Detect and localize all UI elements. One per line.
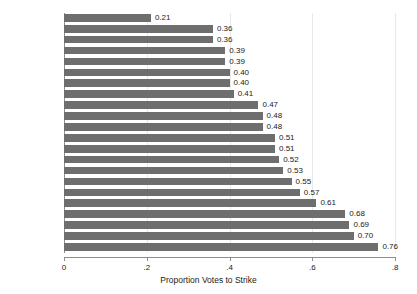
bar-row: 0.51Stewart (64, 133, 395, 144)
plot-area: 0.21Rehnquist0.36Harlan0.36Frankfurter0.… (64, 13, 395, 253)
bar-value-label: 0.52 (283, 155, 299, 165)
bar (64, 189, 300, 197)
x-tick-mark (312, 257, 313, 261)
bar-chart: 0.21Rehnquist0.36Harlan0.36Frankfurter0.… (0, 0, 417, 294)
bar-row: 0.70Brennan (64, 231, 395, 242)
bar (64, 221, 349, 229)
bar-value-label: 0.36 (217, 35, 233, 45)
bar-row: 0.48White (64, 111, 395, 122)
bar (64, 58, 225, 66)
bar-row: 0.51Powell (64, 144, 395, 155)
bar-row: 0.40Clark (64, 78, 395, 89)
bar (64, 134, 275, 142)
bar-value-label: 0.70 (358, 231, 374, 241)
bar (64, 36, 213, 44)
x-tick-mark (395, 257, 396, 261)
bar-value-label: 0.61 (320, 198, 336, 208)
bar-value-label: 0.68 (349, 209, 365, 219)
bar (64, 210, 345, 218)
bar (64, 178, 292, 186)
bar (64, 14, 151, 22)
bar-value-label: 0.69 (353, 220, 369, 230)
bar (64, 69, 230, 77)
bar (64, 112, 263, 120)
bar-value-label: 0.39 (229, 57, 245, 67)
bar-value-label: 0.41 (238, 89, 254, 99)
bar-row: 0.53Breyer (64, 166, 395, 177)
bar-value-label: 0.51 (279, 133, 295, 143)
x-tick-mark (64, 257, 65, 261)
x-tick-mark (230, 257, 231, 261)
x-tick-mark (147, 257, 148, 261)
bar-value-label: 0.21 (155, 13, 171, 23)
bar-row: 0.41O'Connor (64, 89, 395, 100)
bar-row: 0.69Douglas (64, 220, 395, 231)
x-tick-label: .6 (309, 263, 316, 272)
bar-value-label: 0.36 (217, 24, 233, 34)
bar-value-label: 0.40 (234, 78, 250, 88)
bar-row: 0.21Rehnquist (64, 13, 395, 24)
bar (64, 167, 283, 175)
bar-value-label: 0.48 (267, 122, 283, 132)
bar-value-label: 0.57 (304, 188, 320, 198)
bar-value-label: 0.47 (262, 100, 278, 110)
x-tick-label: 0 (62, 263, 66, 272)
bar (64, 232, 354, 240)
bar-row: 0.36Harlan (64, 24, 395, 35)
bar-row: 0.47Black (64, 100, 395, 111)
bar-row: 0.76Marshall (64, 242, 395, 253)
bar-row: 0.57Blackmun (64, 188, 395, 199)
bar-row: 0.68Stevens (64, 209, 395, 220)
x-tick-label: .4 (226, 263, 233, 272)
x-tick-label: .2 (143, 263, 150, 272)
bar-row: 0.61Souter (64, 198, 395, 209)
bar-row: 0.39Scalia (64, 46, 395, 57)
bar-value-label: 0.55 (296, 177, 312, 187)
bar-row: 0.40Thomas (64, 68, 395, 79)
bar (64, 123, 263, 131)
bar-value-label: 0.76 (382, 242, 398, 252)
bar (64, 79, 230, 87)
bar (64, 101, 258, 109)
bar (64, 199, 316, 207)
bar-row: 0.48Kennedy (64, 122, 395, 133)
bar (64, 25, 213, 33)
bar-row: 0.36Frankfurter (64, 35, 395, 46)
bar (64, 243, 378, 251)
bar-row: 0.39Burger (64, 57, 395, 68)
bar-row: 0.55Ginsburg (64, 177, 395, 188)
bar (64, 47, 225, 55)
bar-value-label: 0.53 (287, 166, 303, 176)
bar-value-label: 0.51 (279, 144, 295, 154)
gridline (395, 13, 396, 253)
bar-value-label: 0.40 (234, 68, 250, 78)
bar (64, 145, 275, 153)
x-axis-title: Proportion Votes to Strike (0, 275, 417, 285)
bar (64, 156, 279, 164)
bar-row: 0.52Warren (64, 155, 395, 166)
bar-value-label: 0.48 (267, 111, 283, 121)
x-tick-label: .8 (392, 263, 399, 272)
bar-value-label: 0.39 (229, 46, 245, 56)
bar (64, 90, 234, 98)
